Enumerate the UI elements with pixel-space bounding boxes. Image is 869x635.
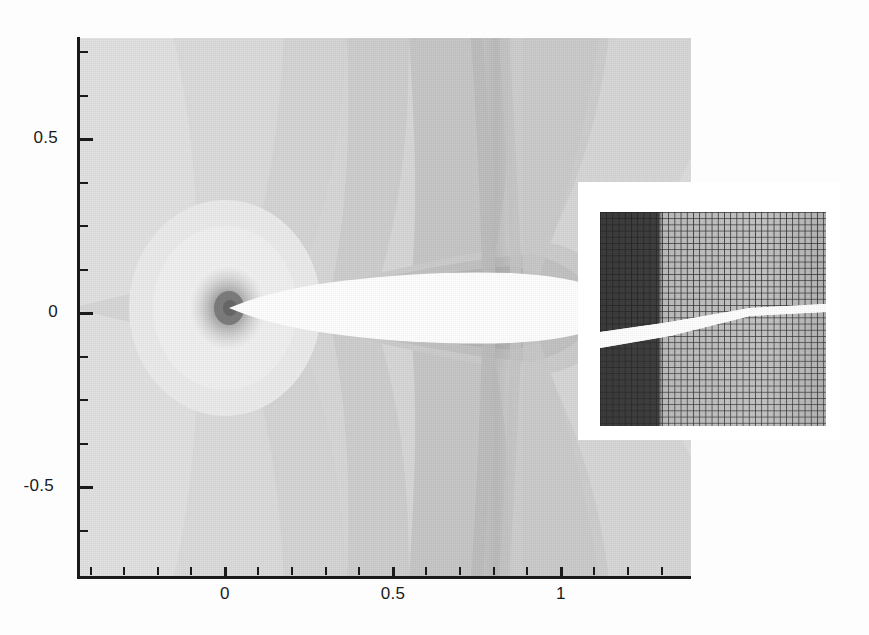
inset-panel-mesh-detail <box>578 182 840 440</box>
y-axis-line <box>77 37 80 579</box>
x-tick-minor <box>325 567 327 575</box>
y-tick-minor <box>80 443 88 445</box>
y-tick-minor <box>80 269 88 271</box>
x-tick-minor <box>123 567 125 575</box>
x-tick-minor <box>157 567 159 575</box>
x-tick-minor <box>661 567 663 575</box>
y-tick-minor <box>80 182 88 184</box>
flow-field-figure: 0.5 0 -0.5 0 0.5 1 <box>0 0 869 635</box>
y-tick-minor <box>80 225 88 227</box>
x-tick-minor <box>425 567 427 575</box>
x-tick-minor <box>526 567 528 575</box>
y-axis-label-2: -0.5 <box>12 476 54 496</box>
y-tick-minor <box>80 356 88 358</box>
x-tick-minor <box>358 567 360 575</box>
x-tick-major-0 <box>224 567 227 579</box>
x-tick-minor <box>190 567 192 575</box>
x-tick-minor <box>459 567 461 575</box>
x-tick-minor <box>493 567 495 575</box>
mesh-image <box>600 212 826 426</box>
x-axis-label-2: 1 <box>536 584 586 604</box>
y-axis-label-0: 0.5 <box>16 128 58 148</box>
x-tick-minor <box>257 567 259 575</box>
y-tick-major-0 <box>80 312 93 315</box>
x-tick-major-0.5 <box>392 567 395 579</box>
y-tick-minor <box>80 399 88 401</box>
x-tick-minor <box>593 567 595 575</box>
y-tick-minor <box>80 51 88 53</box>
x-tick-major-1 <box>560 567 563 579</box>
x-axis-label-1: 0.5 <box>368 584 418 604</box>
x-tick-minor <box>90 567 92 575</box>
x-tick-minor <box>291 567 293 575</box>
y-tick-major-0.5 <box>80 138 93 141</box>
x-axis-line <box>77 576 691 579</box>
y-tick-minor <box>80 95 88 97</box>
y-tick-major--0.5 <box>80 486 93 489</box>
y-tick-minor <box>80 530 88 532</box>
y-axis-label-1: 0 <box>16 302 58 322</box>
x-tick-minor <box>627 567 629 575</box>
x-axis-label-0: 0 <box>200 584 250 604</box>
